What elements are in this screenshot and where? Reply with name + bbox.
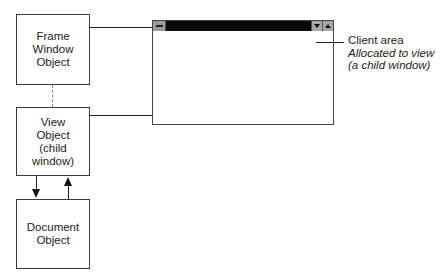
frame-window-object-box: Frame Window Object bbox=[16, 14, 90, 85]
arrow-down-icon bbox=[32, 189, 40, 198]
frame-label-line1: Frame bbox=[36, 30, 69, 43]
maximize-icon bbox=[325, 24, 331, 28]
document-to-view-arrow-shaft bbox=[68, 186, 69, 199]
client-area-annotation: Client area Allocated to view (a child w… bbox=[348, 34, 434, 72]
view-label-line2: Object bbox=[36, 129, 69, 142]
frame-label-line3: Object bbox=[36, 56, 69, 69]
document-label-line1: Document bbox=[27, 221, 79, 234]
minimize-icon bbox=[314, 24, 320, 28]
document-label-line2: Object bbox=[36, 234, 69, 247]
client-area-subtitle-line2: (a child window) bbox=[348, 59, 434, 72]
window-titlebar bbox=[153, 21, 333, 31]
view-label-line1: View bbox=[41, 116, 66, 129]
document-object-box: Document Object bbox=[16, 199, 90, 269]
window-illustration bbox=[152, 20, 334, 125]
frame-label-line2: Window bbox=[33, 43, 74, 56]
client-area-title: Client area bbox=[348, 34, 434, 47]
frame-view-dashed-connector bbox=[52, 85, 53, 107]
window-caption bbox=[166, 21, 311, 31]
maximize-button bbox=[322, 21, 333, 31]
view-to-document-arrow-shaft bbox=[36, 176, 37, 190]
system-menu-icon bbox=[156, 25, 163, 27]
view-object-box: View Object (child window) bbox=[16, 107, 90, 176]
frame-to-window-connector bbox=[90, 27, 156, 28]
system-menu-button bbox=[153, 21, 166, 31]
client-area-subtitle-line1: Allocated to view bbox=[348, 47, 434, 60]
view-label-line3: (child window) bbox=[17, 142, 89, 168]
minimize-button bbox=[311, 21, 322, 31]
arrow-up-icon bbox=[64, 177, 72, 186]
client-area-callout-line bbox=[316, 42, 344, 43]
